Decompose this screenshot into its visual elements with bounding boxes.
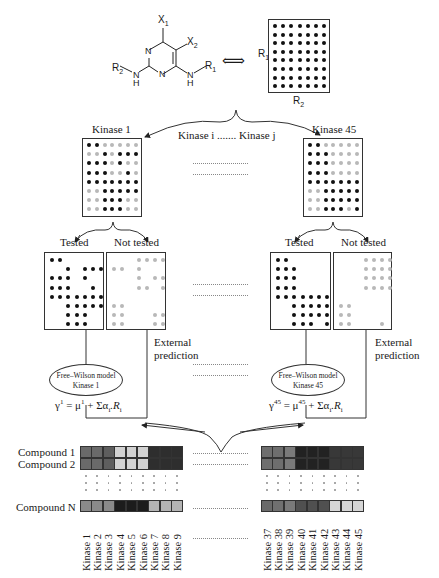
ellipsis-dot <box>346 482 348 484</box>
dot-dark <box>110 198 114 202</box>
x2-text: X <box>187 36 194 47</box>
ellipsis-dot <box>323 489 325 491</box>
dot-dark <box>292 267 296 271</box>
dot-dark <box>347 198 351 202</box>
ellipsis-dot <box>300 482 302 484</box>
column-label: Kinase 41 <box>307 529 318 571</box>
dot-dark <box>325 295 329 299</box>
dot-dark <box>83 295 87 299</box>
dot-dark <box>355 207 359 211</box>
prediction-text: prediction <box>154 349 199 362</box>
dot-dark <box>298 76 302 80</box>
ellipsis-line <box>193 538 248 539</box>
n-top-label: N <box>145 46 152 56</box>
dot-dark <box>306 50 310 54</box>
dot-light <box>339 322 343 326</box>
dot-dark <box>75 313 79 317</box>
dot-light <box>137 258 141 262</box>
kinase-middle-label: Kinase i ....... Kinase j <box>178 129 275 141</box>
dot-dark <box>298 24 302 28</box>
dot-dark <box>314 24 318 28</box>
heatmap-cell <box>171 458 183 470</box>
ellipsis-dot <box>176 489 178 491</box>
dot-dark <box>134 189 138 193</box>
dot-light <box>380 258 384 262</box>
heatmap-cell <box>341 446 353 458</box>
ellipsis-dot <box>266 482 268 484</box>
heatmap-cell <box>114 500 126 512</box>
dot-dark <box>118 207 122 211</box>
dot-dark <box>281 41 285 45</box>
ellipsis-dot <box>153 482 155 484</box>
dot-light <box>112 267 116 271</box>
dot-dark <box>308 161 312 165</box>
heatmap-cell <box>148 446 160 458</box>
kinase-45-not-tested-grid <box>333 252 392 330</box>
dot-dark <box>355 180 359 184</box>
heatmap-cell <box>272 500 284 512</box>
dot-light <box>316 198 320 202</box>
ellipsis-dot <box>108 475 110 477</box>
dot-dark <box>324 189 328 193</box>
column-label: Kinase 6 <box>138 534 149 571</box>
dot-light <box>372 286 376 290</box>
dot-dark <box>322 84 326 88</box>
dot-dark <box>126 171 130 175</box>
dot-dark <box>91 295 95 299</box>
dot-light <box>134 198 138 202</box>
ellipsis-dot <box>312 482 314 484</box>
heatmap-cell <box>80 500 92 512</box>
dot-dark <box>273 67 277 71</box>
ellipsis-dot <box>165 489 167 491</box>
dot-dark <box>298 33 302 37</box>
dot-dark <box>308 152 312 156</box>
dot-dark <box>66 267 70 271</box>
dot-dark <box>118 180 122 184</box>
dot-light <box>87 189 91 193</box>
column-label: Kinase 2 <box>92 534 103 571</box>
ellipsis-line <box>193 453 248 454</box>
heatmap-cell <box>272 458 284 470</box>
x2-label: X2 <box>187 36 198 49</box>
dot-dark <box>276 295 280 299</box>
dot-dark <box>118 152 122 156</box>
heatmap-cell <box>261 500 273 512</box>
dot-light <box>161 286 165 290</box>
dot-light <box>126 143 130 147</box>
heatmap-cell <box>137 446 149 458</box>
dot-dark <box>126 152 130 156</box>
dot-light <box>355 143 359 147</box>
dot-dark <box>103 161 107 165</box>
dot-dark <box>308 171 312 175</box>
dot-dark <box>324 180 328 184</box>
heatmap-cell <box>261 446 273 458</box>
dot-light <box>87 207 91 211</box>
dot-dark <box>289 24 293 28</box>
column-label: Kinase 42 <box>319 529 330 571</box>
dot-dark <box>91 286 95 290</box>
ellipsis-dot <box>357 489 359 491</box>
dot-dark <box>309 313 313 317</box>
nh-left-h: H <box>133 78 140 88</box>
dot-dark <box>309 322 313 326</box>
dot-light <box>331 161 335 165</box>
dot-dark <box>314 58 318 62</box>
dot-dark <box>276 276 280 280</box>
dot-dark <box>103 207 107 211</box>
dot-dark <box>83 304 87 308</box>
heatmap-cell <box>103 458 115 470</box>
dot-dark <box>75 304 79 308</box>
heatmap-left: Kinase 1Kinase 2Kinase 3Kinase 4Kinase 5… <box>80 446 183 546</box>
heatmap-cell <box>295 446 307 458</box>
dot-dark <box>322 24 326 28</box>
dot-dark <box>289 76 293 80</box>
row-label-compound-n: Compound N <box>16 501 76 513</box>
dot-dark <box>314 67 318 71</box>
dot-dark <box>281 58 285 62</box>
dot-dark <box>292 276 296 280</box>
dot-dark <box>322 50 326 54</box>
dot-dark <box>103 152 107 156</box>
dot-dark <box>331 189 335 193</box>
dot-dark <box>331 198 335 202</box>
dot-dark <box>316 180 320 184</box>
